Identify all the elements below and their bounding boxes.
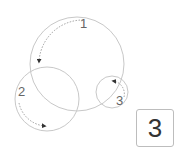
- arrow-path-2: [19, 103, 45, 126]
- label-circle-1: 1: [80, 17, 87, 30]
- answer-number: 3: [148, 115, 162, 141]
- circle-2: [15, 67, 79, 131]
- label-circle-2: 2: [18, 85, 25, 98]
- circle-1: [30, 17, 124, 111]
- arrow-path-1: [39, 20, 83, 62]
- label-circle-3: 3: [116, 94, 123, 107]
- answer-box: 3: [136, 109, 174, 147]
